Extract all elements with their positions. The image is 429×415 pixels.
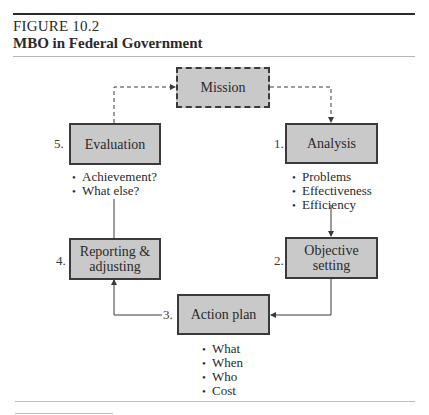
- analysis-label: Analysis: [307, 136, 356, 151]
- reporting-label-line2: adjusting: [89, 259, 140, 274]
- step-number-3: 3.: [163, 307, 173, 323]
- bullet-item: When: [202, 356, 243, 370]
- analysis-box: Analysis: [285, 123, 378, 164]
- step-number-4: 4.: [56, 253, 66, 269]
- bullet-item: Achievement?: [72, 170, 157, 184]
- reporting-box: Reporting & adjusting: [69, 238, 161, 280]
- dashed-arrow-mission-to-analysis: [270, 87, 331, 122]
- objective-label-line1: Objective: [304, 243, 358, 258]
- arrow-objective-to-action: [271, 278, 331, 315]
- arrow-action-to-reporting: [114, 280, 162, 315]
- analysis-bullets: Problems Effectiveness Efficiency: [292, 170, 372, 212]
- bullet-item: Who: [202, 370, 243, 384]
- evaluation-box: Evaluation: [69, 123, 161, 165]
- bottom-rule: [15, 401, 415, 402]
- step-number-5: 5.: [54, 136, 64, 152]
- step-number-2: 2.: [274, 253, 284, 269]
- reporting-label-line1: Reporting &: [80, 244, 150, 259]
- action-plan-bullets: What When Who Cost: [202, 342, 243, 398]
- bullet-item: Efficiency: [292, 198, 372, 212]
- step-number-1: 1.: [274, 136, 284, 152]
- footnote-rule: [15, 413, 113, 414]
- dashed-arrow-evaluation-to-mission: [114, 87, 175, 123]
- objective-box: Objective setting: [285, 237, 378, 279]
- bullet-item: Problems: [292, 170, 372, 184]
- action-plan-box: Action plan: [177, 294, 270, 335]
- mission-box: Mission: [176, 67, 270, 108]
- bullet-item: Cost: [202, 384, 243, 398]
- evaluation-bullets: Achievement? What else?: [72, 170, 157, 198]
- bullet-item: What: [202, 342, 243, 356]
- bullet-item: What else?: [72, 184, 157, 198]
- mission-label: Mission: [200, 80, 245, 95]
- action-plan-label: Action plan: [191, 307, 257, 322]
- evaluation-label: Evaluation: [85, 137, 146, 152]
- objective-label-line2: setting: [313, 258, 350, 273]
- bullet-item: Effectiveness: [292, 184, 372, 198]
